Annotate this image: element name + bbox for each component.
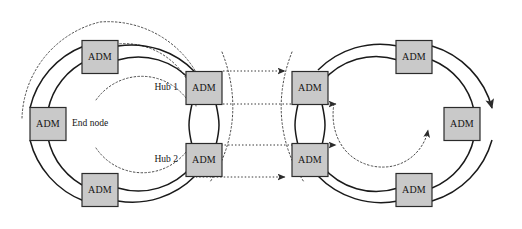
adm-node-label: ADM — [450, 118, 474, 129]
adm-node-right-top: ADM — [396, 41, 432, 74]
adm-node-label: ADM — [402, 51, 426, 62]
adm-node-label: ADM — [298, 82, 322, 93]
adm-node-hub-1: ADM — [186, 72, 222, 105]
left-hub-connectors — [189, 104, 219, 145]
adm-node-label: ADM — [192, 154, 216, 165]
adm-node-right-east: ADM — [444, 108, 480, 141]
left-ring-inner-solid — [48, 57, 192, 191]
right-ring-inner-dotted-arc — [333, 104, 428, 167]
hub-1-label: Hub 1 — [155, 82, 179, 92]
adm-node-hub-2: ADM — [186, 144, 222, 177]
adm-node-label: ADM — [402, 184, 426, 195]
adm-node-right-bottom: ADM — [396, 174, 432, 207]
adm-node-right-hub-top: ADM — [292, 72, 328, 105]
network-diagram: ADMADMADMADMADMADMADMADMADMADM Hub 1Hub … — [0, 0, 522, 229]
adm-node-label: ADM — [36, 118, 60, 129]
right-hub-connectors — [295, 104, 325, 145]
adm-node-right-hub-bottom: ADM — [292, 144, 328, 177]
adm-node-left-top: ADM — [82, 41, 118, 74]
diagram-canvas: ADMADMADMADMADMADMADMADMADMADM Hub 1Hub … — [0, 0, 522, 229]
adm-node-label: ADM — [298, 154, 322, 165]
annotation-labels-layer: Hub 1Hub 2End node — [72, 82, 178, 164]
end-node-label: End node — [72, 118, 108, 128]
adm-node-left-bottom: ADM — [82, 174, 118, 207]
adm-node-label: ADM — [88, 184, 112, 195]
adm-node-left-west: ADM — [30, 108, 66, 141]
hub-2-label: Hub 2 — [155, 154, 179, 164]
adm-node-label: ADM — [88, 51, 112, 62]
adm-node-label: ADM — [192, 82, 216, 93]
